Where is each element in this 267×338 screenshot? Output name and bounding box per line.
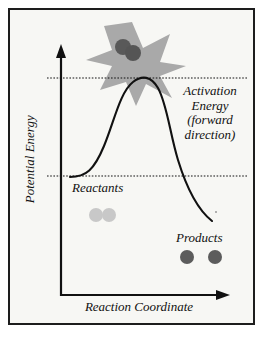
product-atom <box>180 250 194 264</box>
reactant-atom <box>89 208 103 222</box>
reactant-atom <box>102 208 116 222</box>
activation-energy-label: Activation Energy (forward direction) <box>168 84 252 142</box>
y-axis-arrowhead <box>56 44 66 58</box>
x-axis-arrowhead <box>216 290 230 300</box>
products-label: Products <box>176 231 222 246</box>
y-axis-label: Potential Energy <box>23 99 38 219</box>
x-axis-label: Reaction Coordinate <box>64 300 214 315</box>
reactants-label: Reactants <box>72 181 123 196</box>
product-atom <box>208 250 222 264</box>
diagram-page: Potential Energy Reaction Coordinate Act… <box>0 0 267 338</box>
transition-state-atom <box>125 45 141 61</box>
scan-speck <box>215 211 217 213</box>
